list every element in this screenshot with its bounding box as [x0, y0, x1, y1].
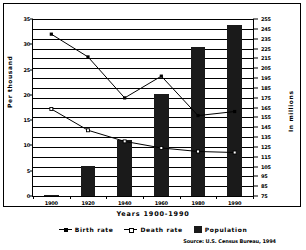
data-point-marker — [233, 110, 236, 113]
x-tick-mark — [143, 196, 144, 199]
right-tick-mark — [253, 58, 258, 59]
x-tick-mark — [253, 196, 254, 199]
right-tick-mark — [253, 146, 258, 147]
x-tick-label: 1960 — [155, 201, 168, 206]
legend-label: Death rate — [140, 227, 182, 233]
right-tick-label: 195 — [261, 76, 271, 81]
filled-square-marker-icon — [59, 227, 72, 232]
right-tick-mark — [253, 48, 258, 49]
legend-item-birth-rate[interactable]: Birth rate — [59, 227, 114, 233]
right-tick-label: 145 — [261, 125, 271, 130]
chart-container: 05101520253035 7585951051151251351451551… — [0, 0, 306, 250]
right-tick-mark — [253, 127, 258, 128]
data-point-marker — [160, 146, 163, 149]
data-point-marker — [196, 114, 199, 117]
x-tick-label: 1940 — [118, 201, 131, 206]
right-tick-label: 115 — [261, 154, 271, 159]
left-tick-label: 20 — [23, 92, 30, 97]
right-tick-mark — [253, 117, 258, 118]
x-tick-label: 1920 — [81, 201, 94, 206]
right-tick-label: 75 — [261, 194, 268, 199]
line-series-layer — [33, 19, 253, 196]
data-point-marker — [197, 150, 200, 153]
legend-label: Population — [205, 227, 248, 233]
right-tick-label: 255 — [261, 17, 271, 22]
right-tick-mark — [253, 107, 258, 108]
data-point-marker — [50, 108, 53, 111]
x-tick-label: 1980 — [191, 201, 204, 206]
left-tick-label: 0 — [27, 194, 30, 199]
right-tick-label: 185 — [261, 85, 271, 90]
right-tick-mark — [253, 78, 258, 79]
bar-swatch-icon — [194, 226, 202, 233]
right-tick-mark — [253, 166, 258, 167]
left-tick-label: 30 — [23, 42, 30, 47]
right-tick-label: 225 — [261, 46, 271, 51]
right-tick-label: 95 — [261, 174, 268, 179]
left-tick-label: 5 — [27, 168, 30, 173]
right-tick-mark — [253, 68, 258, 69]
right-tick-label: 105 — [261, 164, 271, 169]
legend-item-death-rate[interactable]: Death rate — [124, 227, 182, 233]
right-tick-mark — [253, 19, 258, 20]
right-tick-label: 205 — [261, 66, 271, 71]
right-tick-mark — [253, 156, 258, 157]
x-tick-label: 1990 — [228, 201, 241, 206]
right-tick-label: 175 — [261, 95, 271, 100]
right-tick-label: 215 — [261, 56, 271, 61]
left-tick-label: 10 — [23, 143, 30, 148]
left-tick-label: 15 — [23, 118, 30, 123]
x-tick-label: 1900 — [45, 201, 58, 206]
right-tick-label: 165 — [261, 105, 271, 110]
x-tick-mark — [106, 196, 107, 199]
right-tick-mark — [253, 186, 258, 187]
legend-label: Birth rate — [75, 227, 114, 233]
series-line — [51, 109, 234, 152]
x-tick-mark — [216, 196, 217, 199]
chart-legend: Birth rate Death rate Population — [0, 226, 306, 233]
right-tick-label: 85 — [261, 184, 268, 189]
right-tick-label: 155 — [261, 115, 271, 120]
left-tick-label: 35 — [23, 17, 30, 22]
x-axis-title: Years 1900-1990 — [0, 211, 306, 218]
x-tick-mark — [70, 196, 71, 199]
right-tick-mark — [253, 176, 258, 177]
right-tick-mark — [253, 137, 258, 138]
right-tick-mark — [253, 97, 258, 98]
left-tick-label: 25 — [23, 67, 30, 72]
data-point-marker — [123, 96, 126, 99]
right-axis-title: In millions — [288, 90, 294, 132]
left-axis-title: Per thousand — [7, 56, 13, 108]
data-point-marker — [160, 75, 163, 78]
right-tick-mark — [253, 87, 258, 88]
data-point-marker — [86, 55, 89, 58]
x-tick-mark — [180, 196, 181, 199]
data-point-marker — [123, 140, 126, 143]
data-point-marker — [50, 33, 53, 36]
data-point-marker — [87, 129, 90, 132]
right-tick-label: 245 — [261, 26, 271, 31]
right-tick-label: 235 — [261, 36, 271, 41]
right-tick-label: 125 — [261, 144, 271, 149]
right-tick-mark — [253, 38, 258, 39]
source-note: Source: U.S. Census Bureau, 1994 — [183, 239, 276, 244]
right-tick-label: 135 — [261, 135, 271, 140]
plot-area: 05101520253035 7585951051151251351451551… — [33, 19, 253, 196]
right-tick-mark — [253, 28, 258, 29]
legend-item-population[interactable]: Population — [194, 226, 248, 233]
data-point-marker — [233, 151, 236, 154]
open-square-marker-icon — [124, 227, 137, 232]
x-tick-mark — [33, 196, 34, 199]
series-line — [51, 34, 234, 115]
